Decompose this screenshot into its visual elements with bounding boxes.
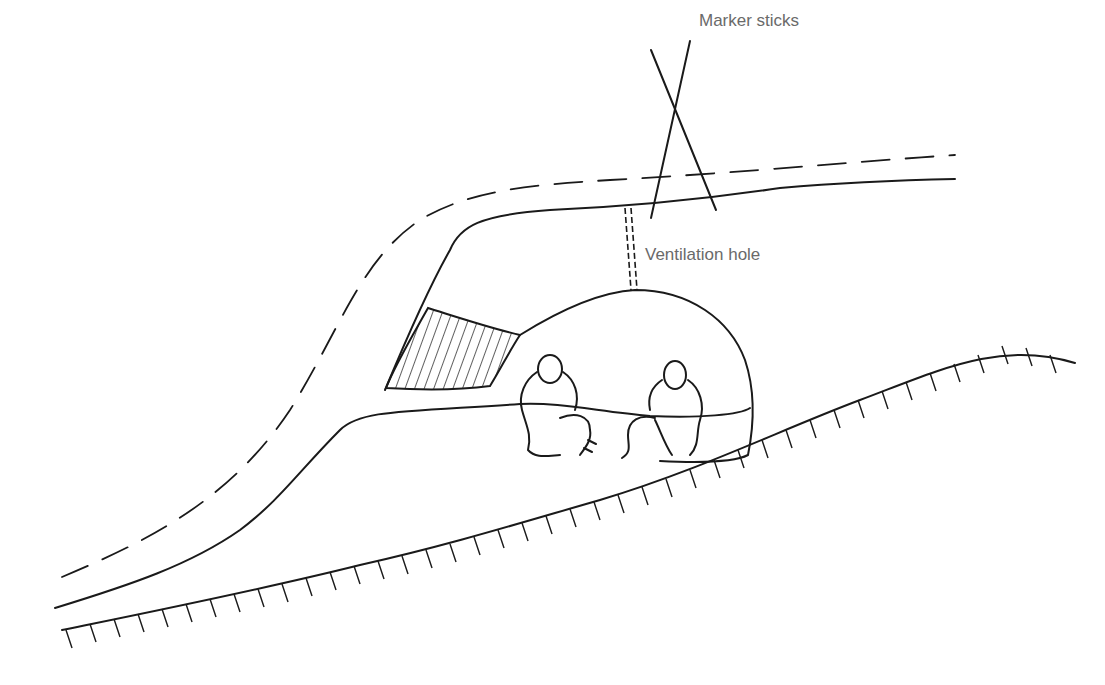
sleeping-chamber-dome [520, 290, 753, 462]
snow-surface-dashed-line [62, 155, 955, 577]
marker-sticks [651, 41, 716, 218]
ground-line [62, 355, 1075, 630]
seated-figure-right [622, 361, 702, 458]
snow-cave-diagram [0, 0, 1105, 685]
snow-drift-outline [55, 404, 750, 608]
marker-sticks-label: Marker sticks [699, 11, 799, 31]
ground-hatching [66, 346, 1056, 648]
ventilation-hole-label: Ventilation hole [645, 245, 760, 265]
ventilation-hole [625, 208, 637, 290]
snow-block-door [386, 308, 520, 389]
